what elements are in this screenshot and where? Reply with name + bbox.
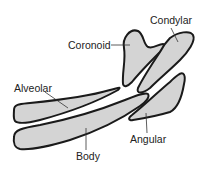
angular-label: Angular xyxy=(130,134,166,145)
mandible-diagram: Coronoid Condylar Alveolar Body Angular xyxy=(0,0,207,169)
body-label: Body xyxy=(76,151,100,162)
condylar-label: Condylar xyxy=(150,15,192,26)
coronoid-label: Coronoid xyxy=(68,40,111,51)
alveolar-label: Alveolar xyxy=(14,83,52,94)
